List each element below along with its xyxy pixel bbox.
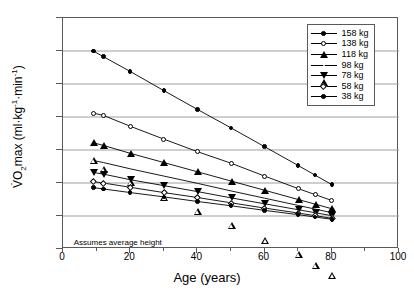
figure-caption: [4, 288, 410, 296]
legend-symbol: [311, 39, 337, 49]
data-point: [262, 144, 267, 149]
data-point: [101, 187, 106, 192]
data-point: [228, 222, 236, 229]
x-tick-label: 20: [109, 252, 149, 262]
legend-label: 58 kg: [337, 82, 364, 91]
legend-marker: [321, 94, 326, 99]
data-point: [330, 217, 335, 222]
data-point: [127, 176, 135, 183]
legend-item[interactable]: 158 kg: [311, 28, 369, 39]
legend-item[interactable]: 78 kg: [311, 70, 369, 81]
data-point: [100, 142, 108, 149]
legend-marker: [321, 41, 326, 46]
legend-label: 158 kg: [337, 29, 369, 38]
data-point: [228, 178, 236, 185]
legend-symbol: [311, 49, 337, 59]
data-point: [295, 196, 303, 203]
data-point: [127, 150, 135, 157]
legend-label: 138 kg: [337, 39, 369, 48]
data-point: [101, 113, 106, 118]
legend-marker: [320, 72, 328, 79]
figure: V̇O2max (ml·kg-1·min-1) 010203040506070 …: [0, 0, 414, 296]
data-point: [313, 192, 318, 197]
legend-label: 118 kg: [337, 50, 368, 59]
x-tick-label: 0: [42, 252, 82, 262]
legend-marker: [320, 51, 328, 58]
legend-label: 38 kg: [337, 92, 364, 101]
data-point: [194, 208, 202, 215]
x-tick-label: 60: [244, 252, 284, 262]
data-point: [262, 208, 267, 213]
legend-label: 78 kg: [337, 71, 364, 80]
data-point: [101, 54, 106, 59]
data-point: [261, 187, 269, 194]
data-point: [128, 124, 133, 129]
x-tick-label: 100: [378, 252, 414, 262]
legend-item[interactable]: 138 kg: [311, 39, 369, 50]
legend-symbol: [311, 81, 337, 91]
legend-symbol: [311, 28, 337, 38]
legend-symbol: [311, 71, 337, 81]
x-axis-title: Age (years): [0, 270, 414, 285]
data-point: [162, 88, 167, 93]
data-point: [330, 182, 335, 187]
legend-symbol: [311, 92, 337, 102]
legend-label: 98 kg: [337, 61, 364, 70]
y-axis-title: V̇O2max (ml·kg-1·min-1): [10, 12, 27, 242]
legend-marker: [320, 83, 326, 89]
y-axis-title-text: V̇O2max (ml·kg-1·min-1): [11, 65, 25, 188]
data-point: [312, 262, 320, 269]
legend-symbol: [311, 60, 337, 70]
data-point: [90, 157, 98, 164]
data-point: [229, 161, 234, 166]
plot-annotation: Assumes average height: [74, 238, 162, 247]
data-point: [194, 168, 202, 175]
data-point: [296, 186, 301, 191]
legend-marker: [321, 31, 326, 36]
data-point: [91, 49, 96, 54]
data-point: [161, 137, 166, 142]
legend-item[interactable]: 98 kg: [311, 60, 369, 71]
data-point: [261, 237, 269, 244]
legend-item[interactable]: 38 kg: [311, 92, 369, 103]
data-point: [91, 111, 96, 116]
data-point: [91, 185, 96, 190]
data-point: [90, 139, 98, 146]
legend[interactable]: 158 kg138 kg118 kg98 kg78 kg58 kg38 kg: [307, 24, 375, 106]
data-point: [262, 174, 267, 179]
data-point: [160, 159, 168, 166]
legend-item[interactable]: 58 kg: [311, 81, 369, 92]
data-point: [312, 201, 320, 208]
data-point: [90, 169, 98, 176]
data-point: [295, 251, 303, 258]
plot-area: Assumes average height 158 kg138 kg118 k…: [62, 17, 398, 248]
data-point: [195, 107, 200, 112]
legend-item[interactable]: 118 kg: [311, 49, 369, 60]
data-point: [195, 199, 200, 204]
data-point: [100, 171, 108, 178]
x-tick-label: 40: [176, 252, 216, 262]
x-tick-label: 80: [311, 252, 351, 262]
